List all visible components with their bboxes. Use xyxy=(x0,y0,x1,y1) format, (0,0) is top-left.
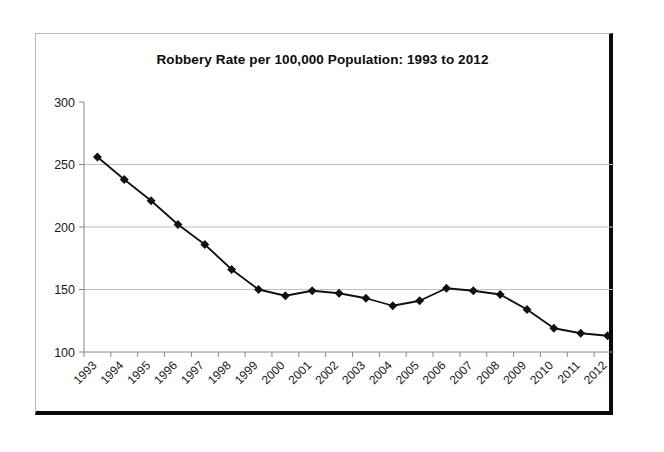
x-tick-label: 1996 xyxy=(151,358,180,387)
y-tick-label: 100 xyxy=(54,346,75,360)
line-chart-svg: 100150200250300 199319941995199619971998… xyxy=(36,34,614,416)
x-axis xyxy=(84,352,614,357)
data-point-marker xyxy=(335,290,342,297)
data-point-marker xyxy=(309,287,316,294)
x-tick-label: 2005 xyxy=(393,358,422,387)
y-tick-label: 200 xyxy=(54,221,75,235)
x-tick-label: 1999 xyxy=(232,358,261,387)
y-tick-label: 250 xyxy=(54,158,75,172)
data-point-marker xyxy=(497,291,504,298)
x-tick-label: 2006 xyxy=(420,358,449,387)
data-point-marker xyxy=(604,332,611,339)
x-tick-label: 2007 xyxy=(447,358,476,387)
x-tick-label: 1994 xyxy=(98,358,127,387)
data-point-marker xyxy=(470,287,477,294)
data-point-marker xyxy=(282,292,289,299)
x-tick-label: 1995 xyxy=(124,358,153,387)
y-tick-label: 150 xyxy=(54,283,75,297)
x-tick-label: 1997 xyxy=(178,358,207,387)
x-tick-label: 2012 xyxy=(581,358,610,387)
chart-frame: Robbery Rate per 100,000 Population: 199… xyxy=(35,33,613,415)
data-point-marker xyxy=(443,285,450,292)
data-point-marker xyxy=(362,295,369,302)
x-tick-labels: 1993199419951996199719981999200020012002… xyxy=(71,358,610,387)
x-tick-label: 2008 xyxy=(474,358,503,387)
data-point-marker xyxy=(577,330,584,337)
x-tick-label: 1998 xyxy=(205,358,234,387)
data-point-marker xyxy=(416,297,423,304)
data-series-robbery-rate xyxy=(97,157,607,336)
x-tick-label: 2000 xyxy=(259,358,288,387)
y-tick-labels: 100150200250300 xyxy=(54,96,75,360)
x-tick-label: 2001 xyxy=(286,358,315,387)
x-tick-label: 2009 xyxy=(500,358,529,387)
x-tick-label: 2002 xyxy=(312,358,341,387)
x-tick-label: 1993 xyxy=(71,358,100,387)
data-point-marker xyxy=(389,302,396,309)
x-tick-label: 2004 xyxy=(366,358,395,387)
x-tick-label: 2010 xyxy=(527,358,556,387)
x-tick-label: 2003 xyxy=(339,358,368,387)
y-axis xyxy=(79,102,84,352)
data-point-markers xyxy=(94,153,611,339)
y-tick-label: 300 xyxy=(54,96,75,110)
gridlines xyxy=(84,165,614,290)
x-tick-label: 2011 xyxy=(555,358,583,386)
plot-area: 100150200250300 199319941995199619971998… xyxy=(36,34,614,416)
